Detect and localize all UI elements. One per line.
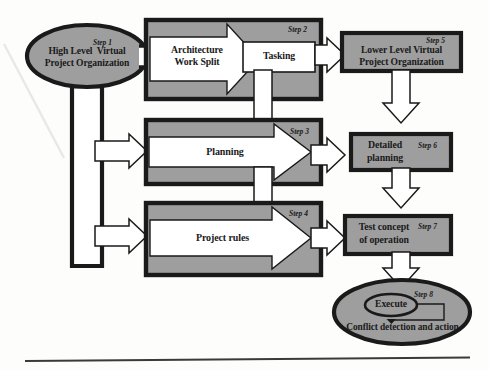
connector-step5-to-step6 <box>383 70 419 123</box>
step8-step-label: Step 8 <box>414 290 433 299</box>
step7-step-label: Step 7 <box>418 222 437 231</box>
diagram-canvas: Step 1 High Level Virtual Project Organi… <box>0 0 489 370</box>
node-step6-box <box>351 134 451 170</box>
step3-step-label: Step 3 <box>290 127 309 136</box>
diagram-graphics <box>0 0 489 370</box>
step1-step-label: Step 1 <box>93 38 112 47</box>
step5-step-label: Step 5 <box>426 36 445 45</box>
node-step8-ellipse <box>334 280 470 344</box>
step4-step-label: Step 4 <box>289 209 308 218</box>
node-step1-ellipse <box>27 25 147 87</box>
step6-step-label: Step 6 <box>418 141 437 150</box>
step2-step-label: Step 2 <box>288 25 307 34</box>
connector-step6-to-step7 <box>383 168 419 208</box>
footer-horizontal-rule <box>25 358 470 362</box>
